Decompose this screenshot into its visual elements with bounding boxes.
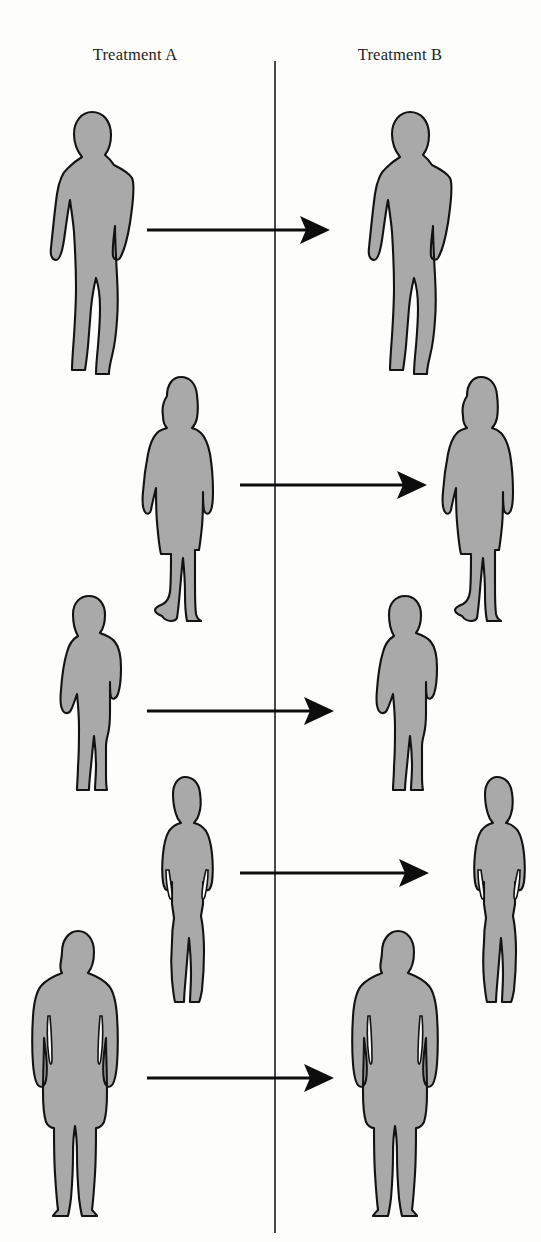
subject-5-treatment-b xyxy=(352,931,438,1216)
subject-2-treatment-a xyxy=(143,377,213,621)
subject-5-treatment-a xyxy=(32,931,118,1216)
subject-3-treatment-a xyxy=(61,596,121,790)
subject-2-treatment-b xyxy=(443,377,513,621)
diagram-canvas: Treatment A Treatment B xyxy=(0,0,541,1242)
subject-4-treatment-a xyxy=(162,777,213,1002)
subject-3-treatment-b xyxy=(377,596,437,790)
silhouette-layer xyxy=(0,0,541,1242)
subject-1-treatment-b xyxy=(369,112,452,374)
subject-1-treatment-a xyxy=(51,112,134,374)
subject-4-treatment-b xyxy=(474,777,525,1002)
